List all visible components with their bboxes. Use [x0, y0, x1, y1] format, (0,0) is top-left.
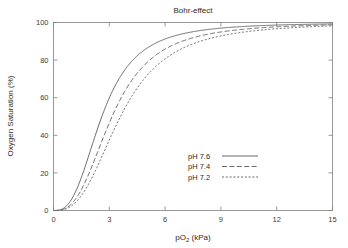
- y-tick-label: 60: [40, 93, 48, 102]
- x-tick-label: 0: [51, 215, 55, 224]
- chart-legend: pH 7.6pH 7.4pH 7.2: [188, 152, 258, 182]
- curve-ph-7-4: [54, 25, 333, 211]
- chart-title: Bohr-effect: [174, 6, 214, 15]
- y-axis-label: Oxygen Saturation (%): [6, 75, 15, 156]
- x-axis-ticks: [54, 23, 333, 211]
- x-tick-label: 15: [328, 215, 336, 224]
- y-tick-label: 20: [40, 169, 48, 178]
- curve-ph-7-2: [54, 26, 333, 211]
- y-axis-tick-labels: 020406080100: [36, 18, 49, 215]
- x-tick-label: 6: [163, 215, 167, 224]
- legend-label-2: pH 7.4: [188, 162, 210, 171]
- x-axis-label-base: pO: [175, 233, 186, 242]
- legend-label-3: pH 7.2: [188, 173, 210, 182]
- y-tick-label: 100: [36, 18, 49, 27]
- x-tick-label: 9: [219, 215, 223, 224]
- legend-label-1: pH 7.6: [188, 152, 210, 161]
- y-tick-label: 80: [40, 56, 48, 65]
- plot-svg: Bohr-effect 03691215 020406080100 pH 7.6…: [0, 0, 348, 248]
- x-axis-tick-labels: 03691215: [51, 215, 336, 224]
- y-axis-ticks: [54, 23, 333, 211]
- chart-figure: Bohr-effect 03691215 020406080100 pH 7.6…: [0, 0, 348, 248]
- x-axis-label: pO2 (kPa): [175, 233, 211, 243]
- data-curves: [54, 24, 333, 211]
- y-tick-label: 0: [44, 206, 48, 215]
- y-tick-label: 40: [40, 131, 48, 140]
- x-tick-label: 3: [107, 215, 111, 224]
- curve-ph-7-6: [54, 24, 333, 211]
- x-tick-label: 12: [273, 215, 281, 224]
- plot-frame: [54, 23, 333, 211]
- x-axis-label-unit: (kPa): [189, 233, 211, 242]
